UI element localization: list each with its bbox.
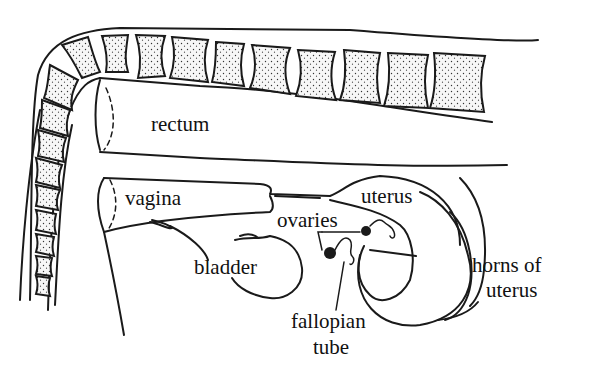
label-fallopian-tube-line2: tube: [313, 336, 349, 358]
vertebra: [250, 45, 290, 94]
label-bladder: bladder: [194, 256, 257, 278]
vertebra: [430, 53, 485, 112]
vertebra: [212, 42, 244, 86]
vertebra: [136, 35, 165, 78]
vertebra: [36, 185, 60, 210]
vertebra: [36, 234, 54, 256]
label-uterus: uterus: [361, 185, 412, 207]
vertebra: [36, 210, 56, 234]
label-vagina: vagina: [125, 187, 181, 209]
vertebra: [296, 50, 336, 100]
vertebra: [340, 50, 380, 103]
label-rectum: rectum: [151, 113, 209, 135]
label-ovaries: ovaries: [277, 209, 338, 231]
vertebra: [36, 276, 50, 296]
label-fallopian-tube-line1: fallopian: [291, 310, 366, 332]
vertebra: [102, 35, 128, 72]
label-horns-of-uterus-line2: uterus: [486, 279, 537, 301]
vertebra: [384, 53, 428, 108]
label-horns-of-uterus-line1: horns of: [472, 254, 541, 276]
vertebra: [36, 256, 52, 276]
vertebra: [62, 37, 100, 78]
spine: [20, 28, 538, 310]
fallopian-tube-pointer: [336, 262, 344, 310]
vertebra: [170, 37, 208, 82]
